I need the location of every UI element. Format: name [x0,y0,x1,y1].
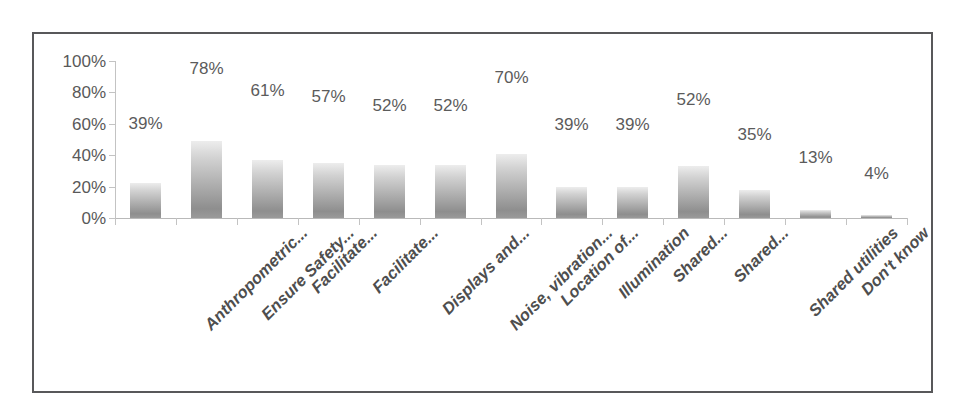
bar-column[interactable]: 39% [130,61,161,218]
bar-data-label: 39% [615,116,649,133]
bar-column[interactable]: 57% [313,61,344,218]
y-axis-tick [109,187,115,188]
x-axis-tick [541,218,542,225]
bar-data-label: 4% [864,165,889,182]
bar-data-label: 39% [554,116,588,133]
y-axis-tick-label: 40% [72,147,106,164]
bar[interactable] [617,187,648,218]
y-axis-tick-label: 60% [72,115,106,132]
x-axis-tick [176,218,177,225]
x-axis-label: Displays and... [439,224,532,317]
bar-data-label: 52% [433,97,467,114]
bar[interactable] [374,165,405,218]
bar-data-label: 70% [494,69,528,86]
plot-area: 100%80%60%40%20%0% 39%78%61%57%52%52%70%… [115,61,907,218]
bar-column[interactable]: 52% [374,61,405,218]
bar-column[interactable]: 4% [861,61,892,218]
x-axis-tick [846,218,847,225]
bar[interactable] [556,187,587,218]
bar[interactable] [496,154,527,218]
chart-frame: 100%80%60%40%20%0% 39%78%61%57%52%52%70%… [32,32,933,393]
bar[interactable] [435,165,466,218]
y-axis-tick-label: 20% [72,178,106,195]
bar-data-label: 39% [128,115,162,132]
bar-column[interactable]: 39% [556,61,587,218]
bar-data-label: 57% [311,88,345,105]
y-axis-tick-label: 80% [72,84,106,101]
x-axis-tick [115,218,116,225]
bar-data-label: 61% [250,82,284,99]
bar-column[interactable]: 35% [739,61,770,218]
bar-column[interactable]: 13% [800,61,831,218]
x-axis-label: Shared... [730,224,791,285]
y-axis-tick [109,124,115,125]
x-axis-tick [481,218,482,225]
y-axis-tick [109,155,115,156]
bar-column[interactable]: 70% [496,61,527,218]
y-axis-tick [109,61,115,62]
bar[interactable] [861,215,892,218]
bar[interactable] [191,141,222,218]
bar[interactable] [739,190,770,218]
y-axis-tick [109,92,115,93]
bar[interactable] [130,183,161,218]
bar-column[interactable]: 52% [678,61,709,218]
bar-column[interactable]: 52% [435,61,466,218]
bar[interactable] [313,163,344,218]
bar[interactable] [800,210,831,218]
bar-column[interactable]: 61% [252,61,283,218]
y-axis-tick-label: 100% [63,53,106,70]
x-axis-tick [359,218,360,225]
x-axis-tick [420,218,421,225]
bar-data-label: 52% [676,91,710,108]
x-axis-tick [663,218,664,225]
x-axis-line [115,218,907,219]
bar-column[interactable]: 39% [617,61,648,218]
bar-data-label: 13% [798,149,832,166]
bar-data-label: 35% [737,126,771,143]
x-axis-tick [724,218,725,225]
bar[interactable] [678,166,709,218]
bar-data-label: 78% [189,60,223,77]
x-axis-tick [237,218,238,225]
bar-data-label: 52% [372,97,406,114]
y-axis-line [115,61,116,218]
bar[interactable] [252,160,283,218]
x-axis-tick [907,218,908,225]
y-axis-tick-label: 0% [81,210,106,227]
bar-column[interactable]: 78% [191,61,222,218]
x-axis-tick [785,218,786,225]
